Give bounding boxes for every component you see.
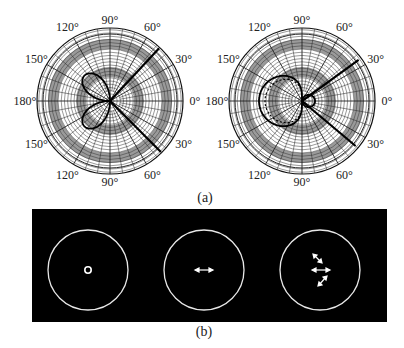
angle-label: 0° [382,94,393,109]
diagonal-arrow-icon [318,276,327,286]
angle-label: 150° [217,136,240,151]
angle-label: 60° [144,167,161,182]
angle-label: 90° [102,13,119,28]
angle-label: 180° [14,94,37,109]
angle-label: 30° [367,136,384,151]
angle-label: 150° [217,51,240,66]
double-arrow-icon [195,268,213,272]
angle-label: 90° [294,13,311,28]
angle-label: 30° [175,51,192,66]
angle-label: 90° [102,175,119,190]
caption-a: (a) [197,190,213,206]
angle-label: 0° [190,94,201,109]
angle-label: 150° [25,136,48,151]
caption-b: (b) [196,324,212,340]
angle-label: 60° [336,167,353,182]
angle-label: 30° [367,51,384,66]
angle-label: 120° [56,20,79,35]
diagonal-arrow-icon [313,254,322,263]
angle-label: 60° [336,20,353,35]
circle-1 [48,230,128,310]
circle-3 [280,230,360,310]
angle-label: 180° [206,94,229,109]
circle-2 [164,230,244,310]
angle-label: 120° [248,20,271,35]
angle-label: 30° [175,136,192,151]
angle-label: 120° [56,167,79,182]
double-arrow-icon [312,268,330,272]
angle-label: 60° [144,20,161,35]
panel-b [32,209,387,322]
angle-label: 90° [294,175,311,190]
angle-label: 120° [248,167,271,182]
ring-icon [85,267,91,273]
angle-label: 150° [25,51,48,66]
